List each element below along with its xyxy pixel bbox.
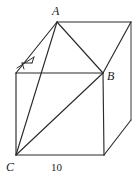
vertex-label-b: B [107, 70, 114, 82]
edge-front-right-vertical [103, 73, 104, 155]
cube-drawing-canvas [0, 0, 140, 178]
diagonal-a-to-b [57, 22, 103, 73]
edge-top-left [16, 22, 57, 73]
edge-length-label: 10 [51, 162, 62, 173]
edge-top-right [103, 22, 131, 73]
cube-geometry-figure: A B C 10 [0, 0, 140, 178]
vertex-label-c: C [6, 161, 14, 173]
right-angle-marker-icon [17, 57, 34, 69]
vertex-label-a: A [52, 5, 59, 17]
edge-bottom-right [104, 120, 131, 155]
